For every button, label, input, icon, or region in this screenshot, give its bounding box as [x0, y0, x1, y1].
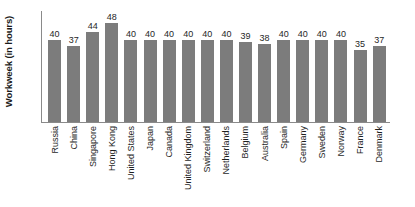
bar[interactable]: 40 [48, 40, 61, 122]
x-tick-label: Germany [298, 126, 307, 163]
bar-group: 40 [121, 11, 140, 122]
x-tick-label: Japan [146, 126, 155, 151]
bar[interactable]: 40 [201, 40, 214, 122]
bar[interactable]: 37 [67, 46, 80, 122]
x-tick-label: France [356, 126, 365, 154]
bar-value-label: 40 [50, 29, 60, 39]
bar-group: 40 [198, 11, 217, 122]
x-tick-cell: Norway [331, 124, 350, 207]
bar-value-label: 37 [69, 35, 79, 45]
bar-value-label: 35 [355, 39, 365, 49]
x-tick-cell: United Kingdom [179, 124, 198, 207]
x-tick-cell: Switzerland [198, 124, 217, 207]
bar-group: 35 [351, 11, 370, 122]
x-tick-label: Singapore [88, 126, 97, 167]
bar-group: 40 [312, 11, 331, 122]
bar-group: 39 [236, 11, 255, 122]
x-tick-cell: Japan [140, 124, 159, 207]
bar-group: 40 [179, 11, 198, 122]
bar[interactable]: 40 [182, 40, 195, 122]
bar-chart-figure: Workweek (in hours) 40374448404040404040… [0, 0, 415, 207]
x-tick-label: Russia [50, 126, 59, 154]
x-tick-label: Spain [279, 126, 288, 149]
bar-group: 38 [255, 11, 274, 122]
x-tick-label: Sweden [317, 126, 326, 159]
bar[interactable]: 37 [373, 46, 386, 122]
x-tick-cell: Russia [45, 124, 64, 207]
x-tick-label: Australia [260, 126, 269, 161]
bar-value-label: 40 [221, 29, 231, 39]
x-axis-line [41, 122, 390, 123]
x-tick-label: Switzerland [203, 126, 212, 173]
bar-value-label: 38 [260, 33, 270, 43]
x-tick-cell: Hong Kong [102, 124, 121, 207]
bar[interactable]: 44 [86, 32, 99, 122]
bar-group: 48 [102, 11, 121, 122]
bar-value-label: 40 [183, 29, 193, 39]
y-axis-title-text: Workweek (in hours) [4, 15, 15, 106]
bar[interactable]: 40 [277, 40, 290, 122]
bar[interactable]: 40 [220, 40, 233, 122]
bar[interactable]: 40 [315, 40, 328, 122]
bar[interactable]: 40 [334, 40, 347, 122]
bar-group: 40 [45, 11, 64, 122]
x-tick-label: Belgium [241, 126, 250, 159]
bar-value-label: 37 [374, 35, 384, 45]
bar-group: 40 [140, 11, 159, 122]
bar[interactable]: 40 [163, 40, 176, 122]
x-tick-cell: Canada [160, 124, 179, 207]
x-tick-cell: China [64, 124, 83, 207]
x-tick-cell: Belgium [236, 124, 255, 207]
bar[interactable]: 40 [296, 40, 309, 122]
x-tick-label: Netherlands [222, 126, 231, 175]
x-tick-label: United States [126, 126, 135, 180]
bar[interactable]: 40 [144, 40, 157, 122]
x-tick-cell: Spain [274, 124, 293, 207]
x-tick-cell: Netherlands [217, 124, 236, 207]
bar-value-label: 40 [126, 29, 136, 39]
x-axis-tick-labels: RussiaChinaSingaporeHong KongUnited Stat… [42, 124, 390, 207]
x-tick-cell: Denmark [370, 124, 389, 207]
bar-group: 37 [64, 11, 83, 122]
bar-value-label: 40 [279, 29, 289, 39]
bar-value-label: 40 [145, 29, 155, 39]
bar-group: 44 [83, 11, 102, 122]
bar[interactable]: 39 [239, 42, 252, 122]
bar-group: 40 [217, 11, 236, 122]
x-tick-cell: Germany [293, 124, 312, 207]
bar[interactable]: 38 [258, 44, 271, 122]
bar-value-label: 40 [164, 29, 174, 39]
bar-value-label: 40 [336, 29, 346, 39]
x-tick-label: Hong Kong [107, 126, 116, 171]
plot-area: 403744484040404040403938404040403537 [41, 11, 390, 123]
bar[interactable]: 48 [105, 23, 118, 122]
bar-value-label: 40 [202, 29, 212, 39]
bar-value-label: 39 [240, 31, 250, 41]
bar-value-label: 40 [317, 29, 327, 39]
bar-group: 40 [274, 11, 293, 122]
x-tick-cell: Australia [255, 124, 274, 207]
x-tick-label: Norway [336, 126, 345, 157]
bar[interactable]: 35 [354, 50, 367, 122]
x-tick-cell: Sweden [312, 124, 331, 207]
x-tick-label: Denmark [375, 126, 384, 163]
x-tick-label: Canada [165, 126, 174, 158]
x-tick-label: China [69, 126, 78, 150]
x-tick-cell: Singapore [83, 124, 102, 207]
bar-value-label: 40 [298, 29, 308, 39]
bar-series: 403744484040404040403938404040403537 [42, 11, 390, 122]
y-axis-title: Workweek (in hours) [0, 0, 18, 122]
bar-value-label: 44 [88, 21, 98, 31]
bar-group: 40 [160, 11, 179, 122]
bar-group: 40 [293, 11, 312, 122]
bar-value-label: 48 [107, 12, 117, 22]
x-tick-cell: France [351, 124, 370, 207]
bar-group: 40 [331, 11, 350, 122]
x-tick-label: United Kingdom [184, 126, 193, 190]
x-tick-cell: United States [121, 124, 140, 207]
bar[interactable]: 40 [124, 40, 137, 122]
bar-group: 37 [370, 11, 389, 122]
